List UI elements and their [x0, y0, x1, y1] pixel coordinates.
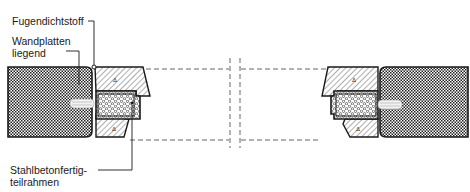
- label-frame-line2: teilrahmen: [10, 176, 59, 188]
- right-precast-frame: Δ Δ: [322, 67, 378, 137]
- left-precast-frame: Δ Δ: [95, 67, 150, 137]
- sealant-dot: [92, 65, 96, 69]
- svg-text:Δ: Δ: [352, 77, 356, 83]
- right-wall-panel: [378, 67, 468, 137]
- label-wall-panels-line2: liegend: [12, 47, 46, 59]
- left-wall-panel: [8, 67, 94, 137]
- svg-text:Δ: Δ: [356, 126, 360, 132]
- dashed-extension-lines: [130, 58, 327, 148]
- svg-text:Δ: Δ: [113, 77, 117, 83]
- label-wall-panels-line1: Wandplatten: [12, 35, 71, 47]
- label-frame-line1: Stahlbetonfertig-: [10, 164, 87, 176]
- label-sealant: Fugendichtstoff: [12, 15, 84, 27]
- svg-text:Δ: Δ: [112, 126, 116, 132]
